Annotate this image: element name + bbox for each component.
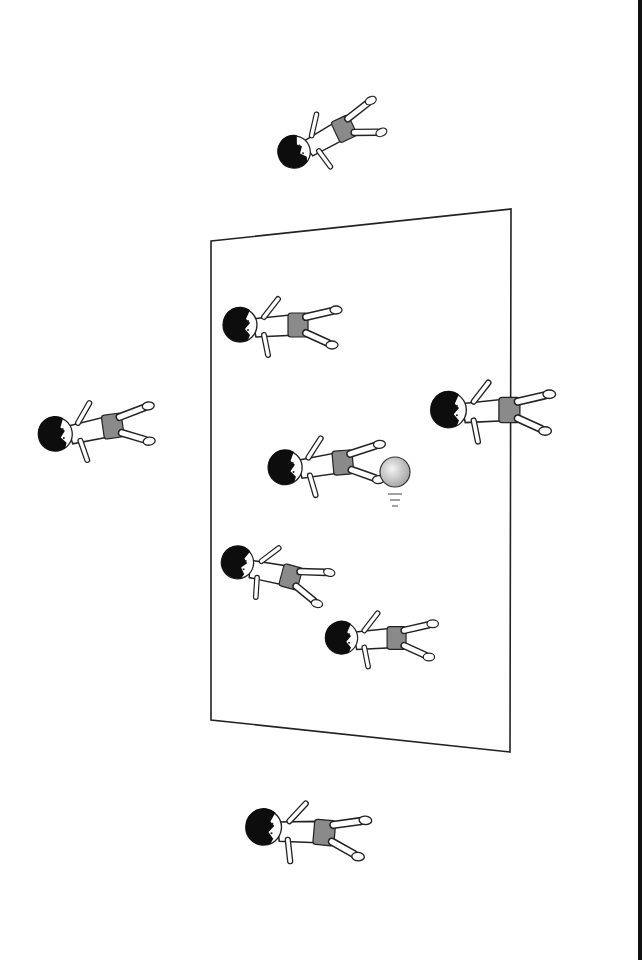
child-inside-4 xyxy=(325,613,438,666)
court-boundary xyxy=(211,209,511,752)
child-inside-1 xyxy=(223,299,342,355)
child-outside-top xyxy=(269,89,394,185)
dodgeball-illustration xyxy=(0,0,642,960)
child-outside-left xyxy=(35,394,161,466)
dodgeball xyxy=(380,457,410,487)
page-right-edge xyxy=(638,0,642,960)
child-inside-3 xyxy=(214,535,337,616)
ball-bounce-marks xyxy=(388,494,402,506)
child-on-line-right xyxy=(431,383,556,442)
child-inside-kicking xyxy=(266,433,389,499)
child-outside-bottom xyxy=(243,798,373,867)
